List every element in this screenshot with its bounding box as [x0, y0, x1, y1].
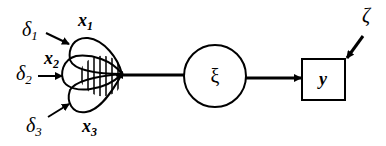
delta1-arrow	[46, 33, 69, 44]
delta3-arrow	[48, 104, 69, 117]
x1-label: x1	[77, 10, 93, 33]
zeta-to-y-arrow	[347, 36, 363, 58]
delta1-label: δ1	[22, 18, 38, 43]
delta2-label: δ2	[16, 62, 32, 87]
zeta-label: ζ	[362, 4, 372, 27]
delta3-label: δ3	[26, 114, 42, 139]
observed-y-label: y	[317, 69, 328, 89]
x2-label: x2	[43, 48, 59, 71]
x3-label: x3	[81, 116, 97, 139]
sem-diagram: δ1 δ2 δ3 x1 x2 x3 ξ y ζ	[0, 0, 386, 146]
latent-xi-label: ξ	[211, 65, 220, 87]
